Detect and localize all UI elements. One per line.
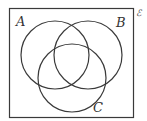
- circle-b: [54, 21, 122, 89]
- universal-set-label: ℰ: [136, 8, 143, 18]
- label-a: A: [15, 14, 25, 29]
- label-c: C: [93, 100, 103, 115]
- circle-a: [21, 21, 89, 89]
- label-b: B: [115, 15, 126, 30]
- venn-diagram: A B C ℰ: [0, 0, 147, 121]
